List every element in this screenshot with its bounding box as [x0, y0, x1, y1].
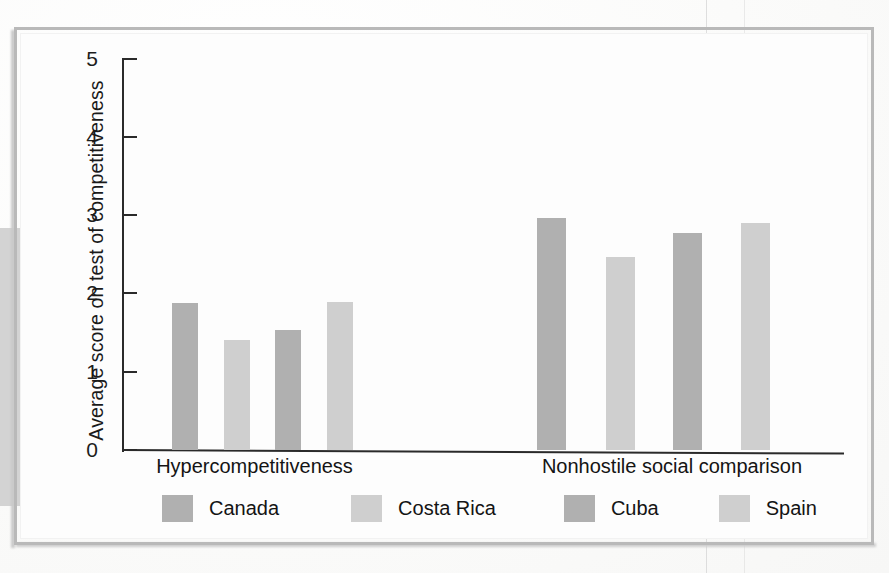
legend-swatch-costa-rica: [351, 495, 382, 522]
bars-container: [0, 0, 889, 450]
legend-item-cuba: Cuba: [564, 495, 659, 522]
legend-item-canada: Canada: [162, 495, 279, 522]
bar-canada-hypercompetitiveness: [172, 303, 198, 450]
bar-cuba-hypercompetitiveness: [275, 330, 301, 450]
bar-costa-rica-hypercompetitiveness: [224, 340, 250, 450]
legend-swatch-cuba: [564, 495, 595, 522]
legend-label-spain: Spain: [766, 497, 817, 520]
legend-label-costa-rica: Costa Rica: [398, 497, 496, 520]
legend-swatch-spain: [719, 495, 750, 522]
bar-canada-nonhostile-social-comparison: [537, 218, 566, 450]
legend-item-spain: Spain: [719, 495, 817, 522]
legend: CanadaCosta RicaCubaSpain: [162, 495, 817, 522]
bar-spain-hypercompetitiveness: [327, 302, 353, 450]
legend-label-canada: Canada: [209, 497, 279, 520]
x-category-label-nonhostile-social-comparison: Nonhostile social comparison: [527, 455, 817, 478]
bar-costa-rica-nonhostile-social-comparison: [606, 257, 635, 450]
legend-swatch-canada: [162, 495, 193, 522]
x-category-label-hypercompetitiveness: Hypercompetitiveness: [142, 455, 367, 478]
bar-chart-plot: 5 4 3 2 1 0 Average score on test of com…: [0, 0, 889, 573]
legend-item-costa-rica: Costa Rica: [351, 495, 496, 522]
bar-cuba-nonhostile-social-comparison: [673, 233, 702, 450]
figure-page: 5 4 3 2 1 0 Average score on test of com…: [0, 0, 889, 573]
bar-spain-nonhostile-social-comparison: [741, 223, 770, 450]
legend-label-cuba: Cuba: [611, 497, 659, 520]
